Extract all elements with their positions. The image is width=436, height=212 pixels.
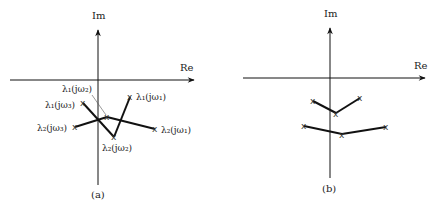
eigenvalue-marker: x	[111, 132, 117, 142]
locus-line	[107, 117, 155, 129]
im-axis-label: Im	[324, 8, 338, 19]
eigenvalue-marker: x	[127, 92, 133, 102]
label-lambda1-jw2: λ₁(jω₂)	[62, 84, 92, 94]
eigenvalue-marker: x	[80, 98, 86, 108]
label-lambda2-jw1: λ₂(jω₁)	[161, 125, 191, 135]
eigenvalue-marker: x	[104, 112, 110, 122]
label-lambda2-jw2: λ₂(jω₂)	[102, 143, 132, 153]
re-axis-label: Re	[414, 60, 428, 71]
panel-b: Im Re x x x x x x (b)	[243, 8, 428, 194]
eigenvalue-marker: x	[383, 122, 389, 132]
panel-caption: (a)	[91, 189, 105, 200]
re-axis-label: Re	[180, 62, 194, 73]
locus-line	[342, 127, 386, 134]
eigenvalue-marker: x	[152, 124, 158, 134]
eigenvalue-marker: x	[72, 122, 78, 132]
im-axis-label: Im	[92, 10, 106, 21]
label-lambda2-jw3: λ₂(jω₃)	[37, 123, 67, 133]
locus-line	[114, 97, 130, 137]
locus-line	[304, 126, 342, 134]
eigenvalue-marker: x	[310, 96, 316, 106]
eigenvalue-marker: x	[339, 130, 345, 140]
panel-caption: (b)	[322, 183, 336, 194]
label-lambda1-jw1: λ₁(jω₁)	[136, 92, 166, 102]
panel-a: Im Re x x x x x x λ₁(jω₂) λ₁(jω₁) λ₁(jω₃…	[10, 10, 194, 200]
eigenvalue-marker: x	[301, 121, 307, 131]
eigenvalue-marker: x	[357, 93, 363, 103]
label-lambda1-jw3: λ₁(jω₃)	[45, 100, 75, 110]
eigenvalue-marker: x	[333, 109, 339, 119]
eigenvalue-loci-figure: Im Re x x x x x x λ₁(jω₂) λ₁(jω₁) λ₁(jω₃…	[0, 0, 436, 212]
